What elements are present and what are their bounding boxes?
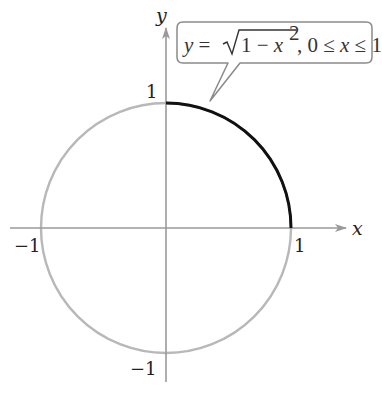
svg-text:, 0 ≤ x ≤ 1: , 0 ≤ x ≤ 1 bbox=[297, 33, 382, 57]
equation-callout: y = 1 − x 2 , 0 ≤ x ≤ 1 bbox=[177, 21, 382, 101]
x-tick-neg-1: −1 bbox=[14, 235, 41, 256]
x-tick-1: 1 bbox=[294, 235, 305, 256]
y-tick-1: 1 bbox=[146, 81, 157, 102]
x-axis-label: x bbox=[352, 217, 363, 239]
highlighted-arc bbox=[166, 103, 291, 228]
svg-text:1 − x: 1 − x bbox=[241, 33, 284, 57]
y-axis-label: y bbox=[155, 4, 167, 26]
svg-text:y =: y = bbox=[182, 33, 210, 57]
unit-circle-diagram: x y −1 1 1 −1 y = 1 − x 2 , 0 ≤ x ≤ 1 bbox=[0, 0, 382, 401]
y-tick-neg-1: −1 bbox=[130, 358, 157, 379]
